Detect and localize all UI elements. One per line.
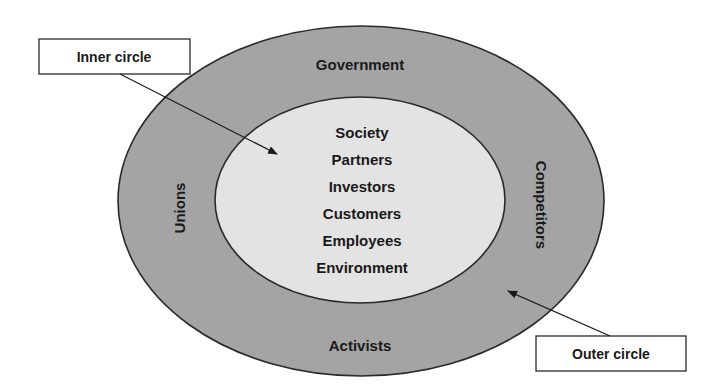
inner-item: Customers [323, 205, 401, 222]
outer-label-top: Government [316, 56, 404, 73]
inner-circle-callout-label: Inner circle [77, 49, 152, 65]
outer-label-left: Unions [171, 183, 188, 234]
inner-item: Investors [329, 178, 396, 195]
outer-label-bottom: Activists [329, 337, 392, 354]
inner-item: Employees [322, 232, 401, 249]
inner-item: Society [335, 124, 389, 141]
inner-item: Environment [316, 259, 408, 276]
outer-label-right: Competitors [533, 161, 550, 249]
inner-item: Partners [332, 151, 393, 168]
stakeholder-diagram: Government Activists Unions Competitors … [0, 0, 724, 390]
outer-circle-callout-label: Outer circle [572, 346, 650, 362]
